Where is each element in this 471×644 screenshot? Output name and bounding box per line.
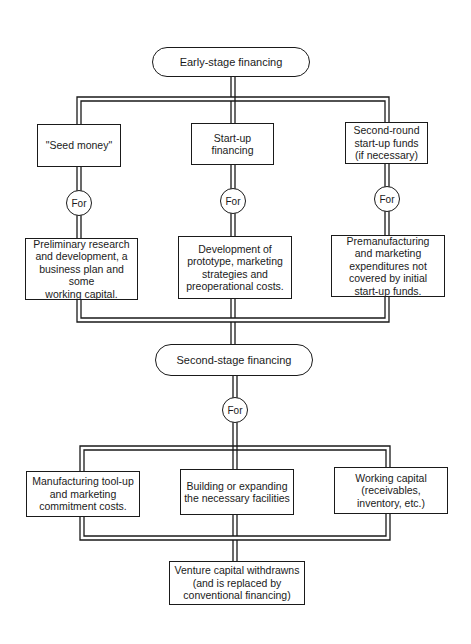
preliminary-research-label: Preliminary research and development, a … (29, 238, 134, 301)
working-capital-label: Working capital (receivables, inventory,… (355, 472, 427, 510)
early-stage-financing-node: Early-stage financing (152, 47, 310, 77)
building-facilities-node: Building or expanding the necessary faci… (180, 469, 294, 515)
for-connector-second-stage: For (222, 397, 248, 423)
start-up-financing-node: Start-up financing (191, 123, 274, 165)
manufacturing-tool-up-label: Manufacturing tool-up and marketing comm… (32, 475, 134, 513)
for-label: For (228, 405, 243, 416)
financing-flowchart: Early-stage financing "Seed money" Start… (0, 0, 471, 644)
second-stage-label: Second-stage financing (177, 354, 292, 367)
for-connector-seed: For (66, 190, 92, 216)
for-label: For (72, 198, 87, 209)
seed-money-node: "Seed money" (37, 124, 121, 167)
start-up-financing-label: Start-up financing (211, 132, 253, 157)
for-label: For (380, 194, 395, 205)
second-round-funds-label: Second-round start-up funds (if necessar… (354, 124, 420, 162)
early-stage-label: Early-stage financing (180, 56, 283, 69)
preliminary-research-node: Preliminary research and development, a … (25, 238, 138, 300)
venture-capital-withdrawn-node: Venture capital withdrawns (and is repla… (169, 561, 305, 605)
working-capital-node: Working capital (receivables, inventory,… (334, 467, 448, 514)
building-facilities-label: Building or expanding the necessary faci… (184, 480, 290, 505)
seed-money-label: "Seed money" (46, 139, 112, 152)
prototype-development-label: Development of prototype, marketing stra… (186, 243, 283, 293)
venture-capital-withdrawn-label: Venture capital withdrawns (and is repla… (175, 564, 300, 602)
second-round-funds-node: Second-round start-up funds (if necessar… (345, 122, 428, 164)
for-connector-second-round: For (374, 186, 400, 212)
prototype-development-node: Development of prototype, marketing stra… (178, 236, 292, 299)
premanufacturing-label: Premanufacturing and marketing expenditu… (347, 235, 430, 298)
for-label: For (226, 196, 241, 207)
second-stage-financing-node: Second-stage financing (155, 344, 313, 376)
premanufacturing-node: Premanufacturing and marketing expenditu… (331, 235, 445, 297)
connector-lines (0, 0, 471, 644)
for-connector-start-up: For (220, 188, 246, 214)
manufacturing-tool-up-node: Manufacturing tool-up and marketing comm… (26, 471, 140, 517)
